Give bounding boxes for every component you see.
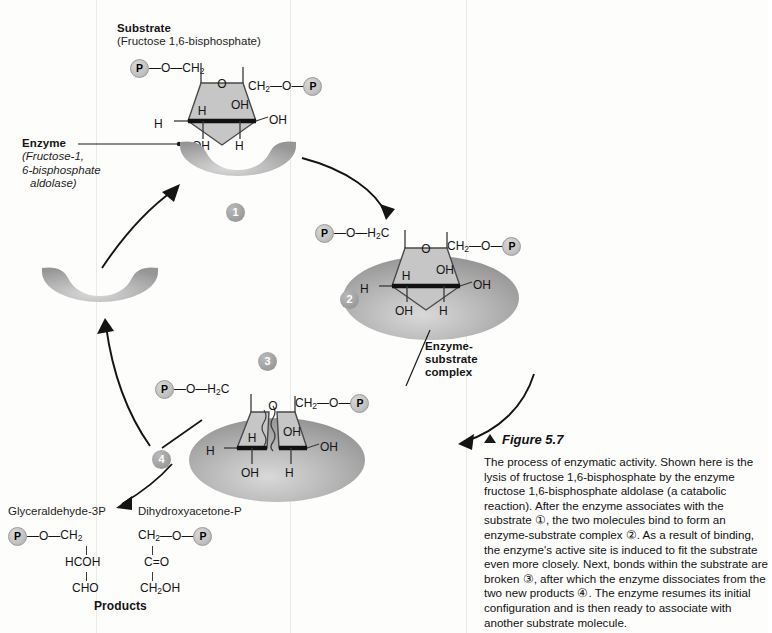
ring-inner-h-label: H [248, 431, 257, 445]
bond-dash: — [27, 528, 39, 542]
product-right-line-2: C=O [144, 555, 169, 569]
oxygen-atom: O [346, 226, 355, 240]
enzyme-subtitle-line-2: 6-bisphosphate [22, 164, 101, 178]
ch2-group: CH2 [138, 528, 160, 542]
complex-label-line-2: substrate [425, 353, 478, 366]
vertical-bond [86, 546, 87, 555]
vertical-bond [152, 546, 153, 555]
bond-dash: — [181, 528, 193, 542]
substrate-subtitle: (Fructose 1,6-bisphosphate) [117, 35, 261, 49]
cleaved-right-oh: OH [320, 440, 338, 454]
step-1-badge: 1 [226, 203, 245, 222]
figure-caption-text: The process of enzymatic activity. Shown… [484, 455, 772, 630]
product-right-line-1: CH2—O—P [138, 527, 242, 546]
figure-number: Figure 5.7 [502, 432, 563, 447]
bond-dash: — [48, 528, 60, 542]
cleaved-bottom-oh: OH [241, 466, 259, 480]
enzyme-subtitle-line-3: aldolase) [22, 177, 101, 191]
bond-dash: — [174, 382, 186, 396]
substrate-label: Substrate (Fructose 1,6-bisphosphate) [117, 22, 261, 49]
oxygen-atom: O [39, 528, 48, 542]
vertical-bond [86, 572, 87, 581]
product-glyceraldehyde-3p: Glyceraldehyde-3P P—O—CH2 HCOH CHO [8, 505, 106, 546]
bond-dash: — [334, 226, 346, 240]
bond-to-right-oh [307, 444, 319, 448]
figure-caption-block: Figure 5.7 The process of enzymatic acti… [484, 430, 772, 630]
bond-to-right-oh [256, 117, 268, 121]
product-left-line-1: P—O—CH2 [8, 527, 106, 546]
complex-right-oh: OH [473, 278, 491, 292]
enzyme-shape-step1 [178, 138, 298, 200]
step-3-badge: 3 [258, 352, 277, 371]
ch2-group: CH2 [60, 528, 82, 542]
ring-inner-h-label: H [198, 104, 207, 118]
ring-oxygen-label: O [217, 77, 226, 91]
ring-inner-h-label: H [402, 269, 411, 283]
complex-bottom-oh: OH [395, 304, 413, 318]
substrate-title: Substrate [117, 22, 261, 35]
products-title: Products [94, 600, 147, 613]
complex-bottom-h: H [439, 304, 448, 318]
product-right-line-3: CH2OH [140, 581, 180, 596]
phosphate-icon: P [130, 59, 149, 78]
ring-inner-oh-label: OH [231, 98, 249, 112]
phosphate-icon: P [193, 527, 212, 546]
product-right-name: Dihydroxyacetone-P [138, 505, 242, 519]
product-left-line-2: HCOH [65, 555, 100, 569]
oxygen-atom: O [186, 382, 195, 396]
enzyme-body [42, 267, 158, 302]
phosphate-icon: P [315, 224, 334, 243]
arrow-free-enzyme-to-step1 [96, 178, 186, 272]
cleaved-bottom-h: H [285, 466, 294, 480]
bond-dash: — [195, 382, 207, 396]
ring-oxygen-label: O [421, 242, 430, 256]
enzyme-body [180, 141, 296, 176]
substrate-right-oh: OH [269, 113, 287, 127]
ring-inner-oh-label: OH [436, 263, 454, 277]
product-left-name: Glyceraldehyde-3P [8, 505, 106, 519]
complex-left-h: H [360, 282, 369, 296]
enzyme-shape-free [40, 264, 160, 326]
substrate-left-h: H [154, 117, 163, 131]
h2c-group: H2C [207, 382, 229, 396]
triangle-marker-icon [484, 434, 496, 443]
vertical-bond [152, 572, 153, 581]
phosphate-icon: P [8, 527, 27, 546]
ring-inner-oh-label: OH [283, 425, 301, 439]
complex-label-line-1: Enzyme- [425, 340, 478, 353]
ring-oxygen-label: O [268, 399, 277, 413]
step-2-badge: 2 [340, 290, 359, 309]
figure-caption-heading: Figure 5.7 [484, 430, 772, 448]
product-dihydroxyacetone-p: Dihydroxyacetone-P CH2—O—P C=O CH2OH [138, 505, 242, 546]
bond-to-right-oh [460, 282, 472, 286]
phosphate-icon: P [303, 77, 322, 96]
product-left-line-3: CHO [72, 581, 99, 595]
bond-dash: — [160, 528, 172, 542]
